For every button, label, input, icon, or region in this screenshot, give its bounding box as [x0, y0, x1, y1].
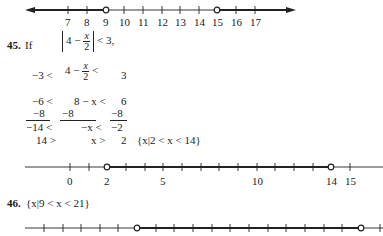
tick-label: 15	[345, 175, 356, 187]
open-point-icon	[214, 7, 220, 13]
step-middle: −8	[62, 107, 74, 119]
tick-label: 0	[67, 175, 73, 187]
tick-label: 12	[157, 16, 168, 28]
step-left: −6 <	[32, 95, 53, 107]
step-right: 3	[121, 69, 127, 81]
step-right: −2	[111, 121, 123, 133]
fraction: x2	[83, 31, 90, 52]
step-right: −8	[111, 107, 123, 119]
tick-label: 10	[119, 16, 130, 28]
open-point-icon	[328, 164, 334, 170]
absolute-value-inequality: 4 − x2 < 3,	[62, 31, 114, 52]
step-right: 2	[121, 134, 127, 146]
solution-set: {x|9 < x < 21}	[26, 197, 90, 209]
step-left: −3 <	[32, 69, 53, 81]
left-arrow-icon	[25, 7, 35, 13]
problem-intro: If	[25, 39, 32, 51]
tick-label: 17	[250, 16, 261, 28]
step-middle: −x <	[81, 121, 102, 133]
open-point-icon	[103, 7, 109, 13]
tick-label: 16	[231, 16, 242, 28]
problem-number: 45.	[7, 39, 21, 51]
tick-label: 14	[326, 175, 337, 187]
tick-label: 11	[138, 16, 149, 28]
step-middle: 4 − x2 <	[65, 61, 98, 82]
open-point-icon	[134, 225, 140, 231]
tick-label: 15	[212, 16, 223, 28]
tick-label: 7	[65, 16, 71, 28]
step-middle: 8 − x <	[74, 95, 106, 107]
step-middle: x >	[91, 134, 105, 146]
tick-label: 14	[194, 16, 205, 28]
tick-label: 2	[104, 175, 110, 187]
step-left: −8	[33, 107, 45, 119]
step-right: 6	[121, 95, 127, 107]
tick-label: 10	[252, 175, 263, 187]
tick-label: 5	[160, 175, 166, 187]
step-left: −14 <	[26, 121, 52, 133]
solution-set: {x|2 < x < 14}	[137, 134, 201, 146]
tick-label: 9	[103, 16, 109, 28]
open-point-icon	[358, 225, 364, 231]
tick-label: 13	[175, 16, 186, 28]
number-line-top	[0, 0, 383, 28]
right-arrow-icon	[286, 7, 296, 13]
absolute-value-expression: 4 − x2	[62, 31, 94, 52]
step-left: 14 >	[36, 134, 56, 146]
problem-number: 46.	[7, 197, 21, 209]
tick-label: 8	[84, 16, 90, 28]
open-point-icon	[104, 164, 110, 170]
number-line-46	[0, 218, 383, 236]
